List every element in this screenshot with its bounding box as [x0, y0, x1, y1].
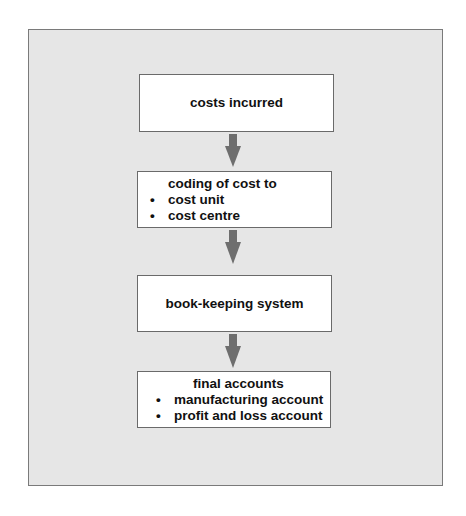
- arrow-down-icon: [224, 230, 242, 266]
- bullet-text: cost centre: [168, 208, 240, 223]
- bullet-icon: •: [150, 192, 155, 208]
- bullet-text: manufacturing account: [174, 392, 323, 407]
- node-title: book-keeping system: [138, 296, 331, 312]
- arrow-down-icon: [224, 334, 242, 370]
- bullet-icon: •: [156, 392, 161, 408]
- node-final-accounts: final accounts • manufacturing account •…: [137, 371, 331, 428]
- bullet-item: • cost unit: [142, 192, 331, 208]
- bullet-item: • profit and loss account: [148, 408, 330, 424]
- bullet-text: profit and loss account: [174, 408, 323, 423]
- bullet-item: • manufacturing account: [148, 392, 330, 408]
- bullet-text: cost unit: [168, 192, 224, 207]
- node-costs-incurred: costs incurred: [139, 74, 334, 132]
- node-title: coding of cost to: [168, 176, 331, 192]
- node-book-keeping-system: book-keeping system: [137, 275, 332, 332]
- bullet-icon: •: [150, 208, 155, 224]
- bullet-icon: •: [156, 408, 161, 424]
- arrow-down-icon: [224, 134, 242, 170]
- node-title: costs incurred: [140, 95, 333, 111]
- node-bullet-list: • manufacturing account • profit and los…: [148, 392, 330, 424]
- node-coding-of-cost: coding of cost to • cost unit • cost cen…: [137, 171, 332, 228]
- bullet-item: • cost centre: [142, 208, 331, 224]
- node-title: final accounts: [193, 376, 330, 392]
- node-bullet-list: • cost unit • cost centre: [142, 192, 331, 224]
